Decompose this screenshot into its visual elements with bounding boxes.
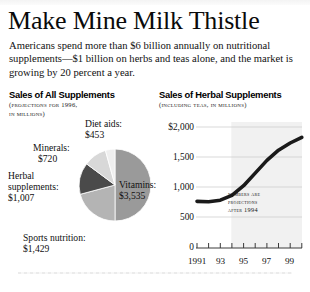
bottom-rule-decoration: [18, 272, 292, 274]
y-axis-label-500: 500: [156, 212, 194, 222]
y-axis-label-1000: 1,000: [156, 182, 194, 192]
x-axis-label-95: 95: [239, 256, 248, 266]
x-axis-label-93: 93: [216, 256, 225, 266]
pie-label-vitamins-name: Vitamins:: [119, 180, 156, 191]
pie-label-diet-aids-value: $453: [85, 130, 104, 141]
pie-label-diet-aids-name: Diet aids:: [85, 119, 122, 130]
x-axis-label-1991: 1991: [188, 256, 206, 266]
pie-label-vitamins-value: $3,535: [119, 191, 145, 202]
left-chart-subtitle-line2: in millions): [9, 110, 45, 119]
top-band-decoration: [0, 0, 310, 5]
pie-label-minerals-name: Minerals:: [33, 143, 70, 154]
right-chart-subtitle: (including teas, in millions): [159, 101, 247, 110]
page-title: Make Mine Milk Thistle: [8, 7, 304, 35]
y-axis-label-0: 0: [156, 242, 194, 252]
pie-label-herbal-name-line1: Herbal: [8, 171, 34, 182]
pie-label-minerals-value: $720: [38, 154, 57, 165]
pie-label-sports-name: Sports nutrition:: [23, 233, 86, 244]
left-chart-subtitle-line1: (projections for 1996,: [9, 101, 77, 110]
left-chart-title: Sales of All Supplements: [9, 89, 115, 100]
projection-note-line3: after 1994: [228, 206, 258, 214]
y-axis-label-2000: $2,000: [156, 122, 194, 132]
y-axis-label-1500: 1,500: [156, 152, 194, 162]
pie-label-sports-value: $1,429: [23, 244, 49, 255]
right-chart-title: Sales of Herbal Supplements: [159, 89, 281, 100]
infographic-page: Make Mine Milk Thistle Americans spend m…: [0, 0, 310, 292]
article-deck: Americans spend more than $6 billion ann…: [9, 39, 301, 79]
x-axis-label-99: 99: [285, 256, 294, 266]
x-axis-label-97: 97: [262, 256, 271, 266]
pie-label-herbal-name-line2: supplements:: [8, 182, 59, 193]
pie-label-herbal-value: $1,007: [8, 193, 34, 204]
